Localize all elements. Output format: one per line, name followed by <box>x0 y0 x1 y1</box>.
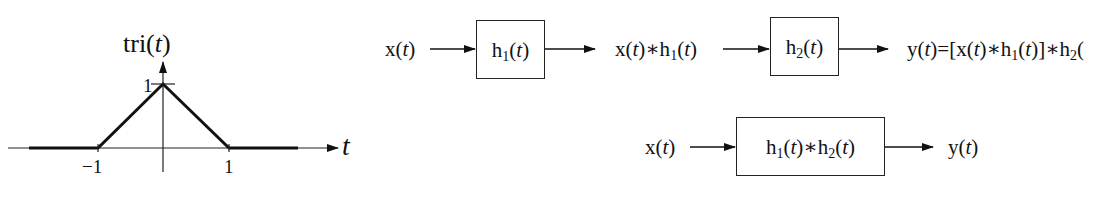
block-h1: h1(t) <box>476 20 545 79</box>
block-h2-label: h2(t) <box>771 34 838 59</box>
peak-label: 1 <box>143 76 153 95</box>
block-h1-label: h1(t) <box>477 37 544 62</box>
eq-input-pre: x( <box>645 135 663 159</box>
cascade-output-label: y(t)=[x(t)∗h1(t)]∗h2( <box>907 39 1084 60</box>
title-post: ) <box>162 29 171 58</box>
block-h1-conv-h2-label: h1(t)∗h2(t) <box>737 134 884 159</box>
graph-title: tri(t) <box>123 31 171 57</box>
x-axis-label: t <box>342 132 350 160</box>
eq-input-post: ) <box>668 135 675 159</box>
h2-post: ) <box>816 34 823 58</box>
intermediate-signal-label: x(t)∗h1(t) <box>615 39 697 60</box>
block-h2: h2(t) <box>770 17 839 76</box>
cascade-input-label: x(t) <box>385 39 415 60</box>
equivalent-input-label: x(t) <box>645 137 675 158</box>
h1-post: ) <box>522 37 529 61</box>
h2-h: h <box>786 34 797 58</box>
tri-graph <box>8 62 338 172</box>
title-pre: tri( <box>123 29 155 58</box>
input-pre: x( <box>385 37 403 61</box>
equivalent-output-label: y(t) <box>948 137 978 158</box>
tick-label-pos1: 1 <box>224 157 234 176</box>
block-h1-conv-h2: h1(t)∗h2(t) <box>736 117 885 176</box>
h1-h: h <box>492 37 503 61</box>
input-post: ) <box>408 37 415 61</box>
tick-label-neg1: −1 <box>82 157 102 176</box>
title-var: t <box>155 29 162 58</box>
eq-output-pre: y( <box>948 135 966 159</box>
eq-output-post: ) <box>971 135 978 159</box>
